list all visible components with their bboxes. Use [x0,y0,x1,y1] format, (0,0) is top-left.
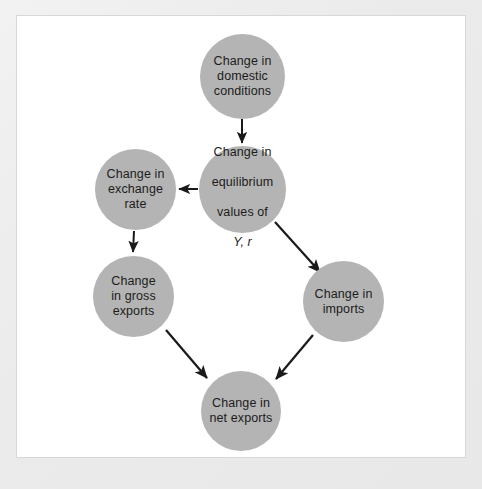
node-label-line-4: Y, r [233,235,252,249]
edge-gross-exports-to-net-exports [166,330,207,378]
edge-equilibrium-to-imports [275,222,320,272]
node-label: Change in gross exports [107,274,160,319]
node-label: Change in imports [311,287,377,317]
node-label: Change in domestic conditions [210,54,276,99]
node-change-in-gross-exports[interactable]: Change in gross exports [93,256,174,337]
node-label: Change in equilibrium values of Y, r [208,130,278,250]
node-change-in-net-exports[interactable]: Change in net exports [201,371,281,451]
node-label: Change in net exports [206,396,277,426]
edge-exchange-to-gross-exports [133,231,134,252]
node-change-in-equilibrium-values[interactable]: Change in equilibrium values of Y, r [199,146,286,233]
node-label-line-1: Change in [214,145,272,159]
node-change-in-imports[interactable]: Change in imports [303,261,384,342]
node-label: Change in exchange rate [103,167,169,212]
flow-diagram: Change in domestic conditions Change in … [0,0,482,489]
edge-imports-to-net-exports [276,335,313,379]
node-change-in-domestic-conditions[interactable]: Change in domestic conditions [200,34,285,119]
node-change-in-exchange-rate[interactable]: Change in exchange rate [95,149,176,230]
node-label-line-2: equilibrium [212,175,274,189]
node-label-line-3: values of [217,205,268,219]
